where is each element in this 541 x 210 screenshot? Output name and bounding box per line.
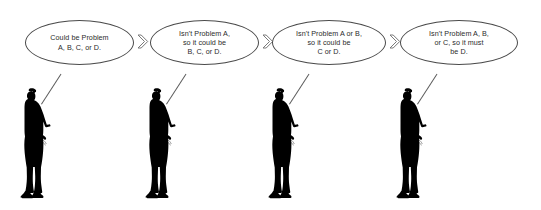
businessperson-silhouette-3 xyxy=(266,88,300,200)
speech-bubble-2-text: Isn't Problem A, so it could be B, C, or… xyxy=(172,29,237,57)
speech-bubble-1-text: Could be Problem A, B, C, or D. xyxy=(43,33,115,52)
panel-2: Isn't Problem A, so it could be B, C, or… xyxy=(125,0,265,210)
panel-4: Isn't Problem A, B, or C, so it must be … xyxy=(376,0,541,210)
speech-bubble-1: Could be Problem A, B, C, or D. xyxy=(25,20,134,65)
businessperson-silhouette-1 xyxy=(18,88,52,200)
businessperson-silhouette-2 xyxy=(143,88,177,200)
panel-1: Could be Problem A, B, C, or D. xyxy=(0,0,140,210)
speech-bubble-4: Isn't Problem A, B, or C, so it must be … xyxy=(400,20,518,65)
panel-3: Isn't Problem A or B, so it could be C o… xyxy=(248,0,390,210)
speech-bubble-4-text: Isn't Problem A, B, or C, so it must be … xyxy=(422,29,496,57)
speech-bubble-3: Isn't Problem A or B, so it could be C o… xyxy=(272,20,386,65)
speech-bubble-2: Isn't Problem A, so it could be B, C, or… xyxy=(150,20,259,65)
diagram-canvas: Could be Problem A, B, C, or D. xyxy=(0,0,541,210)
businessperson-silhouette-4 xyxy=(394,88,428,200)
speech-bubble-3-text: Isn't Problem A or B, so it could be C o… xyxy=(289,29,369,57)
